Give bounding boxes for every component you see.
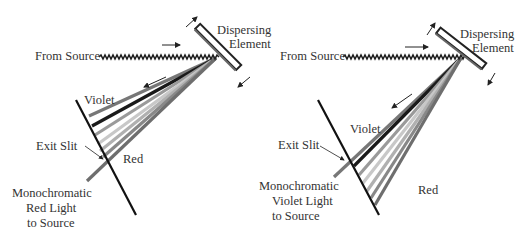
label-red: Red [418,183,439,197]
exit-slit-pointer [320,146,344,160]
label-violet: Violet [84,93,115,107]
label-dispersing: Dispersing [217,23,272,37]
label-dispersing: Dispersing [460,27,515,41]
label-mono-2: Red Light [26,201,77,215]
dispersed-rays [87,58,216,181]
label-violet: Violet [350,122,381,136]
label-mono-2: Violet Light [272,194,333,208]
label-from-source: From Source [280,49,345,63]
source-beam [99,55,219,59]
panel-violet-light: From Source Dispersing Element Violet Re… [259,23,515,223]
label-from-source: From Source [35,49,100,63]
label-element: Element [472,41,514,55]
rotation-arrow-down [488,73,495,85]
label-mono-1: Monochromatic [259,179,339,193]
source-beam [343,55,467,59]
label-mono-3: to Source [27,216,75,230]
rotation-arrow-down [238,77,250,87]
label-element: Element [229,37,271,51]
label-mono-3: to Source [272,209,320,223]
label-red: Red [123,152,144,166]
panel-red-light: From Source Dispersing Element Violet Re… [12,17,272,230]
label-exit-slit: Exit Slit [36,139,78,153]
monochromator-diagram: From Source Dispersing Element Violet Re… [0,0,522,241]
label-exit-slit: Exit Slit [278,138,320,152]
rotation-arrow-up [186,17,197,27]
rotation-arrow-up [427,23,435,35]
label-mono-1: Monochromatic [12,186,92,200]
